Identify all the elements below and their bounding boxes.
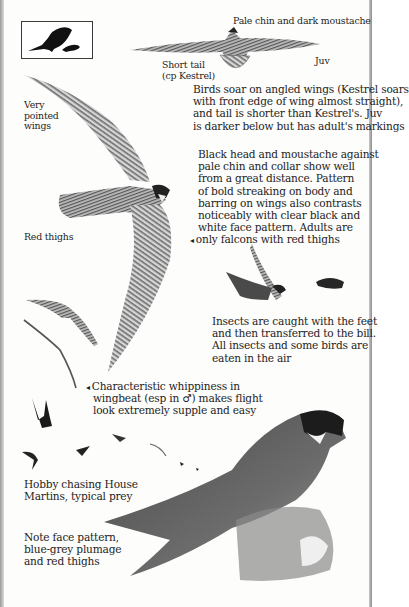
paragraph-whip-first-text: Characteristic whippiness in (92, 380, 240, 392)
pointer-icon: ◂ (86, 383, 90, 392)
juvenile-soaring-falcon (130, 27, 320, 68)
falcon-catching-insect (226, 244, 344, 300)
paragraph-chasing: Hobby chasing House Martins, typical pre… (24, 478, 138, 502)
label-juv-head: Pale chin and dark moustache (233, 16, 371, 27)
perched-adult-hobby (104, 410, 346, 581)
falcon-flight-sequence (24, 300, 98, 428)
paragraph-head: Black head and moustache against pale ch… (198, 148, 379, 233)
pointer-icon: ◂ (190, 236, 194, 245)
paragraph-head-last-text: only falcons with red thighs (196, 233, 340, 245)
paragraph-insects: Insects are caught with the feet and the… (212, 315, 377, 364)
paragraph-head-last: ◂only falcons with red thighs (190, 233, 340, 247)
paragraph-note: Note face pattern, blue-grey plumage and… (24, 531, 121, 568)
paragraph-soar: Birds soar on angled wings (Kestrel soar… (193, 83, 409, 132)
label-juv: Juv (315, 56, 330, 67)
paragraph-whip-rest: wingbeat (esp in ♂) makes flight look ex… (93, 392, 263, 416)
label-very-pointed-wings: Very pointed wings (24, 100, 59, 132)
label-short-tail: Short tail (cp Kestrel) (162, 60, 215, 81)
hobby-chasing-martins (22, 434, 199, 471)
label-red-thighs: Red thighs (24, 232, 73, 243)
